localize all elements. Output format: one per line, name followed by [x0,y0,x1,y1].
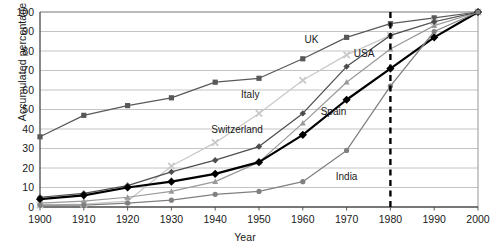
data-point-marker [167,178,175,186]
series-usa [37,9,481,206]
y-axis-tick-label: 60 [22,84,34,96]
x-axis-tick-label: 1990 [423,213,447,225]
x-axis-tick-label: 1950 [247,213,271,225]
data-point-marker [256,110,262,116]
y-axis-tick-label: 20 [22,162,34,174]
x-axis-title: Year [0,231,490,243]
y-axis-tick-label: 50 [22,103,34,115]
x-axis-tick-label: 1910 [72,213,96,225]
series-label-italy: Italy [241,89,259,100]
y-axis-tick-label: 0 [28,201,34,213]
series-label-switzerland: Switzerland [211,124,263,135]
x-axis-tick-label: 1930 [160,213,184,225]
x-axis-tick-label: 1920 [116,213,140,225]
series-line [40,12,478,137]
x-axis-tick-label: 1980 [379,213,403,225]
series-label-india: India [336,171,358,182]
series-uk [37,9,480,139]
series-line [40,12,478,205]
series-india [37,9,480,207]
data-point-marker [256,189,261,194]
x-axis-tick-label: 1900 [28,213,52,225]
data-point-marker [344,35,349,40]
data-point-marker [344,148,349,153]
data-point-marker [81,202,86,207]
data-point-marker [213,80,218,85]
x-axis-tick-label: 2000 [466,213,490,225]
series-line [40,12,478,203]
x-axis-tick-label: 1940 [204,213,228,225]
y-axis-tick-label: 40 [22,123,34,135]
series-label-usa: USA [354,48,375,59]
data-point-marker [212,157,218,163]
series-line [40,12,478,197]
data-point-marker [300,179,305,184]
series-line [40,12,478,205]
y-axis-tick-label: 100 [16,6,34,18]
x-axis-tick-label: 1960 [291,213,315,225]
data-point-marker [256,76,261,81]
series-line [40,12,478,199]
data-point-marker [125,201,130,206]
data-point-marker [81,113,86,118]
data-point-marker [475,9,480,14]
y-axis-tick-label: 30 [22,142,34,154]
y-axis-tick-label: 10 [22,181,34,193]
data-point-marker [213,192,218,197]
series-italy [37,9,481,208]
data-point-marker [37,134,42,139]
data-point-marker [212,139,218,145]
data-point-marker [300,56,305,61]
y-axis-tick-label: 80 [22,45,34,57]
line-chart: Accumulated percentage 01020304050607080… [0,0,490,248]
data-point-marker [300,77,306,83]
series-label-spain: Spain [321,106,347,117]
data-point-marker [211,170,219,178]
data-point-marker [125,103,130,108]
series-label-uk: UK [305,34,319,45]
data-point-marker [343,52,349,58]
series-spain [36,8,482,203]
data-point-marker [169,198,174,203]
y-axis-tick-label: 90 [22,25,34,37]
data-point-marker [169,95,174,100]
data-point-marker [37,202,42,207]
x-axis-tick-label: 1970 [335,213,359,225]
plot-area: 0102030405060708090100190019101920193019… [0,0,490,248]
y-axis-tick-label: 70 [22,64,34,76]
data-point-marker [168,169,174,175]
series-switzerland [37,9,481,201]
data-point-marker [432,29,437,34]
